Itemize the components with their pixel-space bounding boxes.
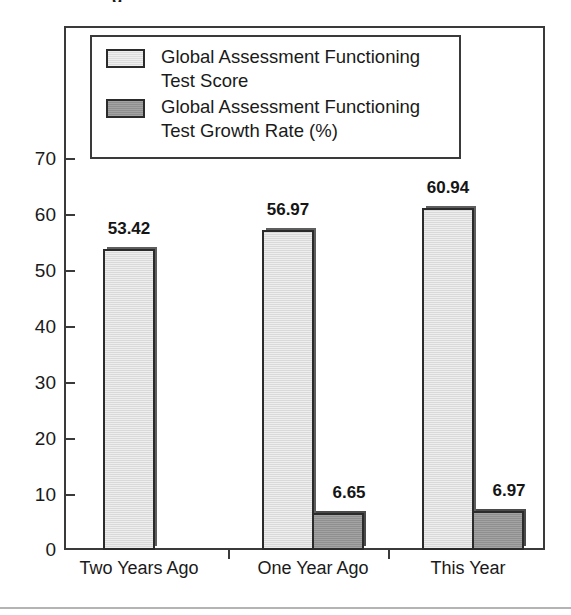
x-axis-category-this-year: This Year [398, 558, 538, 578]
value-label-growth-this-year: 6.97 [474, 482, 544, 499]
legend-label-score: Global Assessment Functioning Test Score [161, 45, 453, 93]
y-tick-label-60: 60 [14, 205, 56, 224]
legend-swatch-score-icon [106, 49, 145, 68]
chart-legend: Global Assessment Functioning Test Score… [90, 35, 461, 159]
y-axis: 70 60 50 40 30 20 10 0 [8, 0, 56, 615]
bar-growth-one-year-ago [312, 513, 364, 550]
y-tick-mark-60 [64, 214, 75, 216]
bar-growth-this-year [472, 511, 524, 550]
y-tick-label-70: 70 [14, 149, 56, 168]
bar-score-two-years-ago [103, 249, 155, 550]
y-tick-mark-50 [64, 270, 75, 272]
bar-chart: 70 60 50 40 30 20 10 0 53.42 56.97 6.65 … [0, 0, 571, 615]
value-label-score-one-year-ago: 56.97 [238, 201, 338, 218]
y-tick-mark-10 [64, 494, 75, 496]
x-axis-category-one-year-ago: One Year Ago [233, 558, 393, 578]
value-label-growth-one-year-ago: 6.65 [314, 484, 384, 501]
y-tick-mark-40 [64, 326, 75, 328]
legend-item-score: Global Assessment Functioning Test Score [92, 44, 459, 94]
y-tick-label-0: 0 [14, 540, 56, 559]
bar-score-one-year-ago [262, 230, 314, 550]
page-separator-rule [0, 607, 571, 609]
value-label-score-this-year: 60.94 [398, 179, 498, 196]
y-tick-label-50: 50 [14, 261, 56, 280]
legend-label-growth-rate: Global Assessment Functioning Test Growt… [161, 95, 453, 143]
y-tick-mark-70 [64, 158, 75, 160]
x-axis-category-two-years-ago: Two Years Ago [59, 558, 219, 578]
bar-score-this-year [422, 208, 474, 550]
y-tick-label-10: 10 [14, 485, 56, 504]
legend-item-growth-rate: Global Assessment Functioning Test Growt… [92, 94, 459, 144]
y-tick-label-40: 40 [14, 317, 56, 336]
x-tick-mark-1 [228, 550, 230, 559]
y-tick-mark-20 [64, 438, 75, 440]
value-label-score-two-years-ago: 53.42 [79, 220, 179, 237]
legend-swatch-growth-rate-icon [106, 99, 145, 118]
y-tick-label-30: 30 [14, 373, 56, 392]
y-tick-label-20: 20 [14, 429, 56, 448]
y-tick-mark-30 [64, 382, 75, 384]
